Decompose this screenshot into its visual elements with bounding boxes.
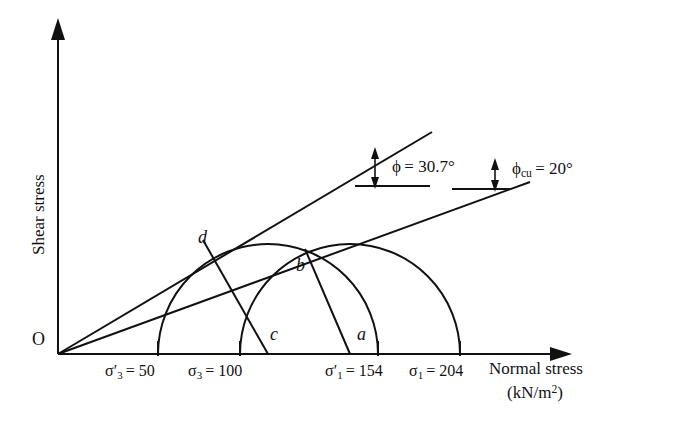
y-axis-label: Shear stress	[30, 174, 47, 255]
tick-label-sigma3-eff: σ′3 = 50	[105, 363, 155, 381]
circle-effective	[158, 244, 378, 354]
sigma-symbol: σ	[325, 362, 334, 379]
angle-arrowhead-down-phi-eff	[371, 177, 379, 189]
angle-arrowhead-down-phi-cu	[491, 180, 499, 192]
tick-label-sigma3: σ3 = 100	[188, 363, 242, 381]
y-axis-arrow-icon	[51, 18, 65, 40]
x-axis-unit-suffix: )	[557, 383, 563, 402]
sigma-subscript: 3	[117, 369, 122, 381]
tick-value: = 50	[126, 362, 155, 379]
line-b-to-a	[305, 249, 350, 354]
phi-symbol: ϕ	[512, 159, 521, 178]
angle-label-phi-eff: ϕ = 30.7°	[392, 158, 455, 175]
phi-symbol: ϕ	[392, 157, 401, 176]
sigma-subscript: 1	[337, 369, 342, 381]
angle-label-phi-cu: ϕcu = 20°	[512, 160, 573, 179]
sigma-symbol: σ	[409, 362, 418, 379]
sigma-subscript: 3	[197, 369, 202, 381]
mohr-circle-figure: Shear stress O Normal stress (kN/m2) σ′3…	[0, 0, 680, 439]
tick-value: = 100	[205, 362, 242, 379]
tick-value: = 154	[346, 362, 383, 379]
point-label-b: b	[296, 256, 305, 274]
point-label-a: a	[357, 325, 366, 343]
point-label-c: c	[270, 325, 278, 343]
angle-value: = 20°	[535, 159, 573, 178]
angle-value: = 30.7°	[404, 157, 454, 176]
failure-envelope-total	[58, 182, 530, 354]
sigma-symbol: σ	[105, 362, 114, 379]
x-axis-label-line2: (kN/m2)	[507, 384, 563, 401]
tick-value: = 204	[426, 362, 463, 379]
tick-label-sigma1-eff: σ′1 = 154	[325, 363, 383, 381]
sigma-subscript: 1	[418, 369, 423, 381]
x-axis-label-line1: Normal stress	[489, 360, 583, 377]
sigma-symbol: σ	[188, 362, 197, 379]
origin-label: O	[32, 330, 45, 348]
phi-subscript: cu	[521, 167, 532, 180]
angle-arrowhead-up-phi-cu	[491, 158, 499, 170]
x-axis-unit-prefix: (kN/m	[507, 383, 551, 402]
angle-arrowhead-up-phi-eff	[371, 147, 379, 159]
tick-label-sigma1: σ1 = 204	[409, 363, 463, 381]
point-label-d: d	[198, 228, 207, 246]
